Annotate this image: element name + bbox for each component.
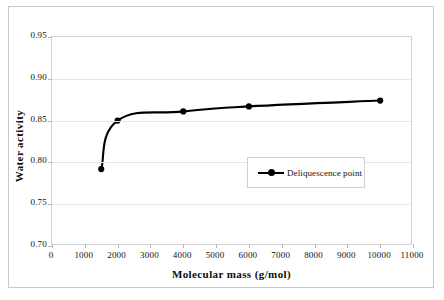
- x-tick-mark: [52, 244, 53, 248]
- x-tick-mark: [118, 244, 119, 248]
- x-axis-title: Molecular mass (g/mol): [51, 268, 412, 280]
- x-tick-mark: [183, 244, 184, 248]
- chart-legend: Deliquescence point: [247, 157, 365, 188]
- x-tick-mark: [85, 244, 86, 248]
- y-tick-mark: [48, 37, 52, 38]
- data-point-marker: [98, 166, 104, 172]
- data-point-marker: [377, 97, 383, 103]
- data-point-marker: [246, 103, 252, 109]
- legend-line-marker-icon: [258, 168, 284, 178]
- x-tick-mark: [249, 244, 250, 248]
- y-tick-mark: [48, 121, 52, 122]
- legend-entry-label: Deliquescence point: [287, 168, 362, 178]
- x-tick-mark: [380, 244, 381, 248]
- x-tick-mark: [315, 244, 316, 248]
- data-point-marker: [180, 108, 186, 114]
- x-tick-mark: [150, 244, 151, 248]
- x-tick-label: 11000: [384, 250, 440, 260]
- gridline-horizontal: [52, 79, 411, 80]
- chart-figure: 0.700.750.800.850.900.95 Molecular mass …: [0, 0, 444, 300]
- y-tick-mark: [48, 162, 52, 163]
- y-tick-mark: [48, 204, 52, 205]
- x-tick-mark: [216, 244, 217, 248]
- gridline-horizontal: [52, 204, 411, 205]
- x-tick-mark: [282, 244, 283, 248]
- plot-area: [51, 36, 412, 245]
- gridline-horizontal: [52, 121, 411, 122]
- x-tick-mark: [413, 244, 414, 248]
- series-layer: [52, 37, 413, 246]
- x-tick-mark: [347, 244, 348, 248]
- y-axis-title: Water activity: [13, 86, 25, 206]
- y-tick-mark: [48, 79, 52, 80]
